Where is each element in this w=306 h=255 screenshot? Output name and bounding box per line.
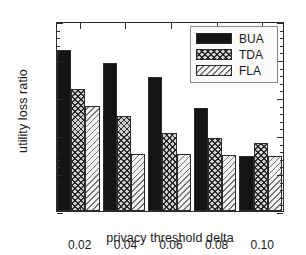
x-axis-tick: [171, 205, 172, 211]
legend-item-fla: FLA: [196, 63, 272, 78]
y-axis-minor-tick: [57, 31, 60, 32]
legend-label-fla: FLA: [239, 65, 261, 77]
y-axis-minor-tick: [57, 190, 60, 191]
legend-label-tda: TDA: [239, 49, 263, 61]
legend-item-tda: TDA: [196, 47, 272, 62]
y-axis-minor-tick: [280, 76, 283, 77]
y-axis-tick: [277, 23, 283, 24]
y-axis-minor-tick: [57, 38, 60, 39]
y-axis-tick: [277, 175, 283, 176]
y-axis-minor-tick: [57, 114, 60, 115]
y-axis-minor-tick: [280, 53, 283, 54]
y-axis-tick: [57, 23, 63, 24]
bar-fla-0.06: [177, 154, 191, 211]
chart-legend: BUA TDA FLA: [190, 26, 278, 83]
y-axis-minor-tick: [280, 129, 283, 130]
y-axis-minor-tick: [280, 107, 283, 108]
x-axis-tick: [125, 205, 126, 211]
y-axis-minor-tick: [57, 205, 60, 206]
y-axis-minor-tick: [57, 91, 60, 92]
y-axis-tick: [57, 61, 63, 62]
x-axis-tick: [80, 205, 81, 211]
y-axis-minor-tick: [57, 167, 60, 168]
y-axis-minor-tick: [280, 167, 283, 168]
y-axis-title: utility loss ratio: [16, 16, 30, 206]
y-axis-minor-tick: [280, 122, 283, 123]
y-axis-minor-tick: [57, 69, 60, 70]
chart-figure: utility loss ratio privacy threshold del…: [0, 0, 306, 255]
y-axis-tick: [57, 213, 63, 214]
y-axis-tick: [57, 175, 63, 176]
bar-bua-0.10: [239, 156, 253, 211]
bar-bua-0.02: [57, 50, 71, 211]
bar-fla-0.04: [131, 154, 145, 211]
y-axis-minor-tick: [57, 198, 60, 199]
y-axis-minor-tick: [280, 38, 283, 39]
legend-swatch-tda: [196, 49, 232, 60]
x-axis-tick: [80, 23, 81, 29]
bar-bua-0.06: [148, 77, 162, 211]
x-axis-tick: [262, 205, 263, 211]
y-axis-minor-tick: [280, 91, 283, 92]
y-axis-minor-tick: [280, 160, 283, 161]
x-axis-tick-label: 0.08: [192, 239, 242, 251]
bar-fla-0.02: [85, 106, 99, 211]
y-axis-minor-tick: [57, 76, 60, 77]
y-axis-minor-tick: [57, 53, 60, 54]
y-axis-tick: [277, 137, 283, 138]
y-axis-tick: [277, 213, 283, 214]
bar-fla-0.08: [222, 155, 236, 211]
y-axis-minor-tick: [280, 84, 283, 85]
y-axis-minor-tick: [280, 205, 283, 206]
y-axis-minor-tick: [280, 69, 283, 70]
y-axis-minor-tick: [57, 46, 60, 47]
legend-swatch-fla: [196, 65, 232, 76]
y-axis-minor-tick: [57, 145, 60, 146]
bar-tda-0.06: [162, 133, 176, 211]
bar-tda-0.02: [71, 89, 85, 211]
y-axis-minor-tick: [57, 152, 60, 153]
y-axis-minor-tick: [57, 84, 60, 85]
bar-tda-0.04: [117, 116, 131, 211]
legend-swatch-bua: [196, 33, 232, 44]
y-axis-minor-tick: [280, 198, 283, 199]
y-axis-minor-tick: [280, 190, 283, 191]
y-axis-minor-tick: [57, 107, 60, 108]
x-axis-tick: [217, 205, 218, 211]
y-axis-minor-tick: [280, 114, 283, 115]
x-axis-tick-label: 0.10: [237, 239, 287, 251]
x-axis-tick: [171, 23, 172, 29]
y-axis-tick: [57, 137, 63, 138]
x-axis-tick-label: 0.04: [100, 239, 150, 251]
bar-bua-0.08: [194, 108, 208, 211]
y-axis-minor-tick: [280, 46, 283, 47]
legend-label-bua: BUA: [239, 33, 264, 45]
bar-bua-0.04: [103, 63, 117, 211]
y-axis-minor-tick: [57, 160, 60, 161]
x-axis-tick: [125, 23, 126, 29]
y-axis-minor-tick: [57, 122, 60, 123]
y-axis-tick: [57, 99, 63, 100]
y-axis-minor-tick: [280, 152, 283, 153]
y-axis-minor-tick: [57, 129, 60, 130]
y-axis-minor-tick: [280, 183, 283, 184]
bar-tda-0.10: [254, 143, 268, 211]
y-axis-minor-tick: [280, 31, 283, 32]
y-axis-tick: [277, 99, 283, 100]
x-axis-tick-label: 0.02: [55, 239, 105, 251]
y-axis-minor-tick: [57, 183, 60, 184]
legend-item-bua: BUA: [196, 31, 272, 46]
bar-tda-0.08: [208, 138, 222, 211]
x-axis-tick-label: 0.06: [146, 239, 196, 251]
y-axis-minor-tick: [280, 145, 283, 146]
